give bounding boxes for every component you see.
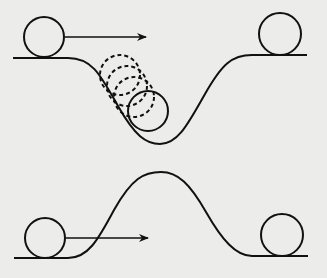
start-ball <box>25 218 65 258</box>
ghost-ball <box>107 66 147 106</box>
ghost-ball <box>100 55 140 95</box>
ghost-balls <box>100 55 154 117</box>
diagram-canvas <box>0 0 327 278</box>
start-ball <box>24 17 64 57</box>
hill-panel <box>14 172 308 258</box>
valley-track <box>13 55 307 144</box>
end-ball <box>261 214 303 256</box>
valley-panel <box>13 13 307 144</box>
end-ball <box>259 13 301 55</box>
